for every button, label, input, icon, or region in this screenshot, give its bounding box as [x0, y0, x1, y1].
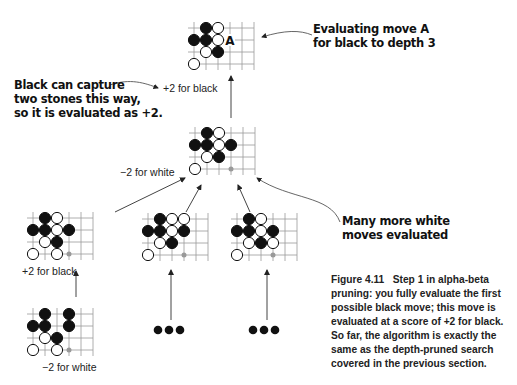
white-stone [154, 237, 165, 248]
white-stone [178, 213, 189, 224]
black-stone [27, 320, 38, 331]
white-stone [166, 225, 177, 236]
black-stone [212, 46, 223, 57]
black-stone [189, 139, 200, 150]
callout-black-capture: Black can capture two stones this way, s… [14, 78, 163, 120]
go-board-child2 [142, 213, 208, 261]
last-move-marker [229, 167, 234, 172]
last-move-marker [182, 253, 187, 258]
callout-many-white-moves: Many more white moves evaluated [342, 214, 450, 242]
black-stone [213, 151, 224, 162]
white-stone [243, 237, 254, 248]
white-stone [188, 58, 199, 69]
black-stone [51, 236, 62, 247]
black-stone [51, 332, 62, 343]
black-stone [154, 225, 165, 236]
move-label-a: A [225, 34, 235, 48]
score-grandchild: −2 for white [42, 361, 97, 373]
go-board-mid [189, 127, 255, 175]
white-stone [212, 34, 223, 45]
ellipsis-1 [154, 326, 185, 335]
ellipsis-2 [249, 326, 280, 335]
last-move-marker [67, 252, 72, 257]
leader-right [257, 178, 340, 222]
edge-child2-to-mid [186, 185, 201, 212]
white-stone [255, 225, 266, 236]
white-stone [27, 248, 38, 259]
black-stone [255, 237, 266, 248]
black-stone [63, 320, 74, 331]
black-stone [27, 224, 38, 235]
white-stone [201, 151, 212, 162]
white-stone [166, 213, 177, 224]
figure-caption: Figure 4.11 Step 1 in alpha-beta pruning… [331, 273, 517, 371]
black-stone [200, 34, 211, 45]
white-stone [255, 213, 266, 224]
black-stone [63, 224, 74, 235]
black-stone [243, 225, 254, 236]
white-stone [39, 236, 50, 247]
white-stone [267, 237, 278, 248]
black-stone [200, 22, 211, 33]
leader-top-right [262, 31, 312, 37]
black-stone [231, 225, 242, 236]
white-stone [51, 212, 62, 223]
black-stone [39, 308, 50, 319]
last-move-marker [271, 253, 276, 258]
black-stone [154, 213, 165, 224]
score-mid-board: −2 for white [120, 166, 175, 178]
figure-caption-text: Step 1 in alpha-beta pruning: you fully … [331, 274, 503, 369]
black-stone [178, 225, 189, 236]
go-board-grandchild [27, 308, 93, 356]
figure-number: Figure 4.11 [331, 274, 384, 285]
black-stone [39, 320, 50, 331]
white-stone [231, 249, 242, 260]
callout-evaluating-move: Evaluating move A for black to depth 3 [313, 22, 435, 50]
last-move-marker [67, 348, 72, 353]
score-child1-edge: +2 for black [22, 265, 77, 277]
black-stone [225, 139, 236, 150]
black-stone [142, 225, 153, 236]
white-stone [51, 248, 62, 259]
black-stone [63, 308, 74, 319]
white-stone [142, 249, 153, 260]
white-stone [212, 22, 223, 33]
score-root-edge: +2 for black [163, 82, 218, 94]
white-stone [51, 224, 62, 235]
black-stone [243, 213, 254, 224]
edge-child3-to-mid [238, 185, 250, 212]
black-stone [188, 34, 199, 45]
go-board-root: A [188, 22, 254, 70]
black-stone [267, 225, 278, 236]
white-stone [51, 344, 62, 355]
white-stone [200, 46, 211, 57]
black-stone [39, 224, 50, 235]
go-board-child1 [27, 212, 93, 260]
ellipses [154, 326, 280, 335]
white-stone [189, 163, 200, 174]
black-stone [201, 139, 212, 150]
white-stone [39, 332, 50, 343]
black-stone [166, 237, 177, 248]
black-stone [201, 127, 212, 138]
black-stone [39, 212, 50, 223]
go-board-child3 [231, 213, 297, 261]
white-stone [213, 139, 224, 150]
white-stone [213, 127, 224, 138]
edge-child1-to-mid [115, 178, 185, 212]
white-stone [27, 344, 38, 355]
